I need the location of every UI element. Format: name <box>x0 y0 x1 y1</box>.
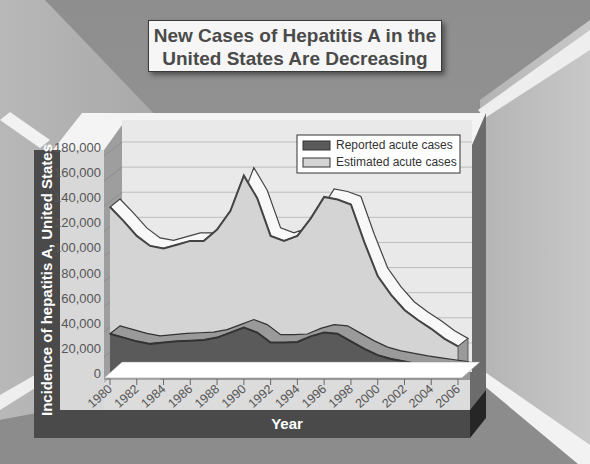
legend-swatch-reported <box>303 141 330 150</box>
legend-label-reported: Reported acute cases <box>336 138 453 152</box>
x-axis-label: Year <box>271 415 303 432</box>
y-tick-label: 100,000 <box>54 240 101 255</box>
y-tick-label: 0 <box>94 366 101 381</box>
legend-swatch-estimated <box>303 158 330 167</box>
x-axis-label-band <box>34 410 470 438</box>
y-tick-label: 180,000 <box>54 140 101 155</box>
y-tick-label: 20,000 <box>61 341 101 356</box>
y-tick-label: 60,000 <box>61 291 101 306</box>
y-axis-label: Incidence of hepatitis A, United States <box>38 144 55 416</box>
y-tick-label: 140,000 <box>54 190 101 205</box>
frame-right-face <box>470 113 486 420</box>
legend-label-estimated: Estimated acute cases <box>336 155 457 169</box>
chart-floor <box>104 362 480 378</box>
chart: 020,00040,00060,00080,000100,000120,0001… <box>0 0 590 464</box>
y-tick-label: 160,000 <box>54 165 101 180</box>
y-tick-label: 40,000 <box>61 316 101 331</box>
y-tick-label: 120,000 <box>54 215 101 230</box>
legend: Reported acute cases Estimated acute cas… <box>297 135 460 173</box>
y-tick-label: 80,000 <box>61 266 101 281</box>
